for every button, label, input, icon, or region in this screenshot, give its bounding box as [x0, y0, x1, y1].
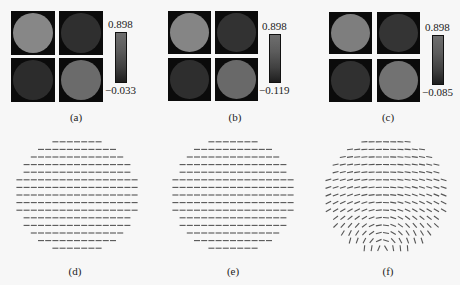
vector-arrow [434, 179, 440, 181]
vector-arrow [347, 201, 353, 203]
vector-arrow [354, 202, 360, 204]
vector-arrow [427, 209, 432, 212]
vector-arrow [348, 223, 352, 228]
vector-arrow [426, 194, 432, 196]
vector-arrow [376, 239, 381, 241]
vector-arrow [399, 238, 402, 243]
vector-arrow [414, 238, 416, 244]
vector-arrow [362, 224, 367, 228]
vector-arrow [420, 230, 423, 235]
vector-arrow [369, 187, 375, 188]
vector-arrow [355, 216, 360, 219]
vector-arrow [354, 172, 360, 173]
vector-field-e [172, 142, 293, 248]
vector-arrow [390, 210, 396, 211]
vector-arrow [333, 164, 339, 165]
vector-arrow [412, 194, 418, 196]
vector-arrow [333, 216, 338, 220]
vector-arrow [412, 201, 418, 203]
vector-arrow [361, 179, 367, 180]
vector-arrow [326, 179, 332, 181]
vector-arrow [354, 187, 360, 188]
vector-arrow [412, 157, 418, 158]
vector-arrow [391, 238, 395, 242]
vector-arrow [390, 217, 396, 219]
vector-arrow [384, 246, 387, 251]
vector-arrow [340, 187, 346, 189]
vector-arrow [390, 202, 396, 203]
vector-arrow [397, 164, 403, 165]
vector-arrow [405, 149, 411, 150]
vector-arrow [413, 230, 416, 235]
vector-arrow [419, 164, 425, 165]
vector-arrow [413, 223, 417, 228]
vector-arrow [427, 223, 431, 227]
vector-arrow [407, 238, 409, 244]
vector-arrow [405, 157, 411, 158]
vector-arrow [433, 171, 439, 172]
vector-arrow [405, 202, 411, 204]
vector-arrow [340, 164, 346, 165]
vector-arrow [369, 202, 375, 203]
vector-arrow [347, 149, 353, 150]
vector-arrow [426, 179, 432, 181]
vector-arrow [376, 232, 382, 233]
vector-arrow [378, 245, 380, 251]
vector-arrow [361, 164, 367, 165]
vector-arrow [412, 164, 418, 165]
vector-arrow [405, 209, 410, 212]
vector-arrow [333, 179, 339, 181]
vector-arrow [383, 232, 389, 233]
vector-arrow [397, 172, 403, 173]
vector-arrow [383, 240, 389, 242]
vector-arrow [426, 201, 431, 204]
vector-arrow [340, 172, 346, 173]
vector-arrow [364, 245, 365, 251]
vector-arrow [398, 216, 403, 219]
vector-arrow [412, 172, 418, 173]
vector-arrow [333, 209, 338, 212]
vector-arrow [354, 164, 360, 165]
vector-arrow [355, 209, 360, 212]
vector-arrow [349, 230, 352, 235]
vector-arrow [421, 238, 423, 244]
vector-arrow [405, 164, 411, 165]
vector-arrow [326, 186, 332, 188]
vector-arrow [347, 172, 353, 173]
vector-arrow [356, 230, 359, 235]
vector-arrow [390, 187, 396, 188]
vector-arrow [341, 230, 344, 235]
vector-arrow [376, 225, 382, 226]
panel-caption: (e) [227, 265, 239, 277]
panel-caption: (f) [383, 265, 394, 277]
vector-arrow [361, 187, 367, 188]
vector-arrow [333, 194, 339, 196]
vector-arrow [341, 223, 345, 227]
vector-arrow [412, 209, 417, 212]
vector-arrow [419, 149, 425, 150]
vector-arrow [427, 231, 431, 236]
vector-arrow [390, 224, 396, 226]
vector-arrow [340, 194, 346, 196]
vector-arrow [348, 216, 353, 220]
vector-arrow [347, 194, 353, 196]
vector-arrow [426, 172, 432, 173]
vector-arrow [412, 187, 418, 189]
vector-arrow [362, 209, 368, 211]
vector-arrow [434, 194, 440, 196]
vector-arrow [434, 209, 439, 212]
vector-arrow [354, 179, 360, 180]
vector-arrow [405, 172, 411, 173]
vector-arrow [369, 231, 374, 234]
vector-field-d [16, 142, 137, 248]
vector-arrow [419, 157, 425, 158]
vector-arrow [412, 149, 418, 150]
vector-arrow [412, 179, 418, 180]
vector-arrow [441, 186, 447, 188]
vector-arrow [390, 195, 396, 196]
vector-arrow [420, 216, 425, 220]
vector-arrow [369, 195, 375, 196]
vector-arrow [420, 223, 424, 227]
vector-arrow [400, 245, 401, 251]
vector-arrow [347, 209, 352, 212]
